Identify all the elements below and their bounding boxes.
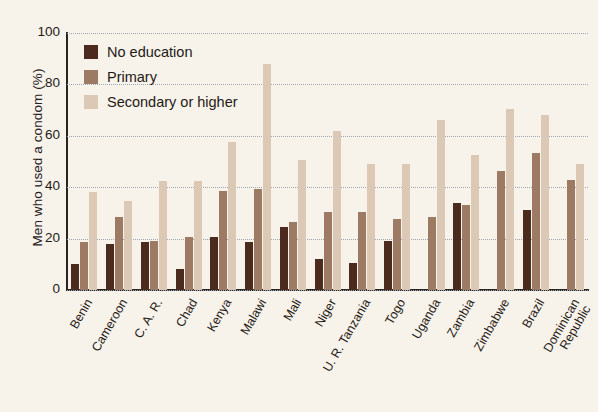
bar xyxy=(245,242,253,290)
x-label-cell: Togo xyxy=(380,293,415,408)
bar-group xyxy=(275,33,310,290)
bar xyxy=(219,191,227,290)
x-label-cell: Uganda xyxy=(414,293,449,408)
x-axis-label: Togo xyxy=(383,297,408,327)
x-label-cell: Chad xyxy=(171,293,206,408)
bar xyxy=(210,237,218,290)
x-label-cell: Cameroon xyxy=(102,293,137,408)
bar xyxy=(453,203,461,290)
bar xyxy=(462,205,470,290)
x-axis-label: Chad xyxy=(174,297,200,329)
bar xyxy=(497,171,505,291)
bar xyxy=(124,201,132,290)
bar xyxy=(428,217,436,290)
chart-legend: No educationPrimarySecondary or higher xyxy=(84,44,238,119)
bar xyxy=(159,181,167,290)
x-axis-label: Benin xyxy=(68,297,95,331)
legend-swatch xyxy=(84,95,98,109)
bar-group xyxy=(449,33,484,290)
x-label-cell: C. A. R. xyxy=(136,293,171,408)
bar xyxy=(384,241,392,290)
x-label-cell: Zimbabwe xyxy=(484,293,519,408)
bar xyxy=(89,192,97,290)
x-axis-label: Zambia xyxy=(446,297,478,340)
bar xyxy=(280,227,288,290)
legend-label: Secondary or higher xyxy=(107,94,238,110)
bar xyxy=(358,212,366,290)
bar xyxy=(576,164,584,290)
y-axis-tick-label: 100 xyxy=(20,24,60,39)
bar xyxy=(115,217,123,290)
bar xyxy=(532,153,540,290)
x-axis-label: Uganda xyxy=(410,297,443,341)
bar xyxy=(289,222,297,290)
legend-swatch xyxy=(84,45,98,59)
x-label-cell: U. R. Tanzania xyxy=(345,293,380,408)
bar xyxy=(506,109,514,290)
bar xyxy=(567,180,575,291)
x-axis-label: C. A. R. xyxy=(132,297,165,341)
x-label-cell: Dominican Republic xyxy=(553,293,588,408)
bar-group xyxy=(414,33,449,290)
legend-label: No education xyxy=(107,44,192,60)
x-axis-label: Kenya xyxy=(206,297,235,334)
x-label-cell: Mali xyxy=(275,293,310,408)
bar xyxy=(437,120,445,290)
x-label-cell: Kenya xyxy=(206,293,241,408)
legend-item: Secondary or higher xyxy=(84,94,238,110)
bar xyxy=(185,237,193,290)
bar xyxy=(393,219,401,290)
legend-swatch xyxy=(84,70,98,84)
bar-group xyxy=(380,33,415,290)
bar-group xyxy=(484,33,519,290)
legend-item: No education xyxy=(84,44,238,60)
y-axis-tick-label: 40 xyxy=(20,178,60,193)
bar xyxy=(523,210,531,290)
bar xyxy=(150,241,158,290)
bar-group xyxy=(519,33,554,290)
bar xyxy=(228,142,236,290)
bar-group xyxy=(553,33,588,290)
bar-group xyxy=(345,33,380,290)
legend-label: Primary xyxy=(107,69,157,85)
bar xyxy=(298,160,306,290)
bar xyxy=(263,64,271,290)
gridline xyxy=(67,290,588,291)
x-axis-label: Niger xyxy=(313,297,339,329)
bar-group xyxy=(241,33,276,290)
y-axis-tick-label: 60 xyxy=(20,127,60,142)
bar xyxy=(324,212,332,290)
bar xyxy=(106,244,114,290)
x-label-cell: Malawi xyxy=(241,293,276,408)
legend-item: Primary xyxy=(84,69,238,85)
bar xyxy=(402,164,410,290)
bar-group xyxy=(310,33,345,290)
bar xyxy=(80,242,88,290)
bar xyxy=(333,131,341,290)
bar xyxy=(71,264,79,290)
bar xyxy=(141,242,149,290)
y-axis-tick-label: 20 xyxy=(20,230,60,245)
bar xyxy=(471,155,479,290)
y-axis-tick-label: 0 xyxy=(20,281,60,296)
bar-chart: Men who used a condom (%) 020406080100 B… xyxy=(0,0,598,412)
bar xyxy=(254,189,262,291)
bar xyxy=(176,269,184,290)
bar xyxy=(194,181,202,290)
bar xyxy=(541,115,549,290)
x-axis-label: Malawi xyxy=(239,297,270,337)
bar xyxy=(315,259,323,290)
y-axis-tick-label: 80 xyxy=(20,75,60,90)
x-axis-label: Brazil xyxy=(520,297,547,331)
x-axis-labels: BeninCameroonC. A. R.ChadKenyaMalawiMali… xyxy=(67,293,588,408)
x-axis-label: Mali xyxy=(281,297,304,323)
bar xyxy=(349,263,357,290)
bar xyxy=(367,164,375,290)
